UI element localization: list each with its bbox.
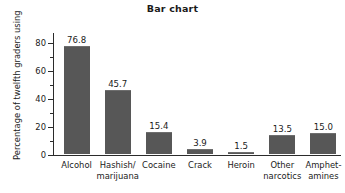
x-axis-category-label: Cocaine <box>142 160 176 171</box>
x-axis-category-label: Alcohol <box>61 160 92 171</box>
y-tick-minor <box>50 113 53 114</box>
x-axis-category-label: Amphet- amines <box>305 160 341 181</box>
y-tick-label: 20 <box>35 122 46 132</box>
bar[interactable] <box>310 133 336 154</box>
x-axis-category-label: Other narcotics <box>263 160 301 181</box>
bar[interactable] <box>187 149 213 154</box>
y-tick-label: 0 <box>41 150 46 160</box>
y-tick-mark <box>48 99 53 100</box>
bar-value-label: 15.0 <box>314 122 333 132</box>
bar-value-label: 13.5 <box>273 124 292 134</box>
bar[interactable] <box>269 135 295 154</box>
y-tick-minor <box>50 85 53 86</box>
y-tick-mark <box>48 43 53 44</box>
y-tick-mark <box>48 127 53 128</box>
x-axis-category-label: Hashish/ marijuana <box>97 160 139 181</box>
bar-value-label: 15.4 <box>149 121 168 131</box>
y-tick-minor <box>50 141 53 142</box>
bar-value-label: 1.5 <box>234 141 248 151</box>
y-tick-label: 40 <box>35 94 46 104</box>
bar-value-label: 76.8 <box>67 35 86 45</box>
y-tick-mark <box>48 71 53 72</box>
bar[interactable] <box>228 152 254 154</box>
x-axis-line <box>53 155 341 156</box>
bar[interactable] <box>146 132 172 154</box>
plot-area: 020406080 76.845.715.43.91.513.515.0 <box>53 33 341 155</box>
bar[interactable] <box>64 46 90 154</box>
y-tick-label: 80 <box>35 38 46 48</box>
bar-chart-figure: Bar chart Percentage of twelfth graders … <box>0 0 345 193</box>
bar-value-label: 3.9 <box>193 138 207 148</box>
chart-title: Bar chart <box>0 3 345 14</box>
y-tick-label: 60 <box>35 66 46 76</box>
x-axis-category-label: Heroin <box>227 160 254 171</box>
y-tick-mark <box>48 155 53 156</box>
bar[interactable] <box>105 90 131 154</box>
y-axis-line <box>53 33 54 156</box>
x-axis-category-label: Crack <box>188 160 212 171</box>
y-axis-title: Percentage of twelfth graders using <box>12 20 22 160</box>
bar-value-label: 45.7 <box>108 79 127 89</box>
y-tick-minor <box>50 57 53 58</box>
